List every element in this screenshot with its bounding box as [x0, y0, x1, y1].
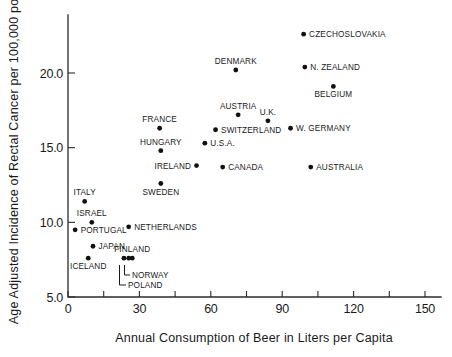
- marker-italy: [82, 199, 87, 204]
- x-axis-ticks: [68, 291, 425, 297]
- data-point-iceland: ICELAND: [70, 256, 107, 271]
- label-norway: NORWAY: [132, 271, 169, 280]
- label-u-k: U.K.: [260, 108, 277, 117]
- data-point-poland: [122, 256, 127, 261]
- data-point-finland: FINLAND: [114, 245, 150, 260]
- label-italy: ITALY: [74, 188, 97, 197]
- data-point-france: FRANCE: [142, 115, 177, 130]
- data-point-switzerland: SWITZERLAND: [213, 126, 281, 135]
- data-point-ireland: IRELAND: [154, 162, 198, 171]
- y-tick-label-20.0: 20.0: [40, 67, 63, 81]
- marker-canada: [220, 165, 225, 170]
- x-axis-tick-labels: 0306090120150: [65, 302, 436, 316]
- data-point-w-germany: W. GERMANY: [288, 124, 351, 133]
- data-point-australia: AUSTRALIA: [308, 163, 363, 172]
- marker-austria: [236, 112, 241, 117]
- data-point-israel: ISRAEL: [77, 209, 107, 224]
- data-point-netherlands: NETHERLANDS: [126, 223, 197, 232]
- marker-sweden: [158, 181, 163, 186]
- plot-area: 0306090120150 5.010.015.020.0 CZECHOSLOV…: [0, 0, 452, 357]
- marker-poland: [122, 256, 127, 261]
- data-points: CZECHOSLOVAKIADENMARKN. ZEALANDBELGIUMAU…: [70, 30, 386, 290]
- label-poland: POLAND: [128, 281, 163, 290]
- label-france: FRANCE: [142, 115, 177, 124]
- data-point-italy: ITALY: [74, 188, 97, 203]
- data-point-czechoslovakia: CZECHOSLOVAKIA: [301, 30, 386, 39]
- x-tick-label-120: 120: [344, 302, 364, 316]
- marker-switzerland: [213, 127, 218, 132]
- marker-hungary: [158, 148, 163, 153]
- marker-u-k: [266, 118, 271, 123]
- label-w-germany: W. GERMANY: [296, 124, 351, 133]
- label-israel: ISRAEL: [77, 209, 107, 218]
- marker-netherlands: [126, 224, 131, 229]
- marker-n-zealand: [302, 65, 307, 70]
- data-point-u-k: U.K.: [260, 108, 277, 123]
- label-canada: CANADA: [228, 163, 263, 172]
- marker-portugal: [73, 227, 78, 232]
- label-finland: FINLAND: [114, 245, 150, 254]
- label-denmark: DENMARK: [215, 57, 257, 66]
- marker-w-germany: [288, 126, 293, 131]
- x-tick-label-150: 150: [415, 302, 435, 316]
- scatter-chart: 0306090120150 5.010.015.020.0 CZECHOSLOV…: [0, 0, 452, 357]
- data-point-n-zealand: N. ZEALAND: [302, 63, 360, 72]
- label-sweden: SWEDEN: [142, 188, 179, 197]
- x-tick-label-30: 30: [133, 302, 147, 316]
- data-point-hungary: HUNGARY: [140, 138, 182, 153]
- x-tick-label-90: 90: [276, 302, 290, 316]
- data-point-denmark: DENMARK: [215, 57, 257, 72]
- label-iceland: ICELAND: [70, 262, 107, 271]
- x-tick-label-60: 60: [204, 302, 218, 316]
- marker-czechoslovakia: [301, 32, 306, 37]
- marker-australia: [308, 165, 313, 170]
- data-point-u-s-a: U.S.A.: [202, 139, 234, 148]
- marker-u-s-a: [202, 141, 207, 146]
- data-point-austria: AUSTRIA: [220, 102, 257, 117]
- label-n-zealand: N. ZEALAND: [310, 63, 360, 72]
- label-switzerland: SWITZERLAND: [221, 126, 281, 135]
- label-austria: AUSTRIA: [220, 102, 257, 111]
- marker-ireland: [194, 163, 199, 168]
- label-u-s-a: U.S.A.: [210, 139, 235, 148]
- label-portugal: PORTUGAL: [81, 226, 127, 235]
- data-point-belgium: BELGIUM: [314, 84, 352, 99]
- label-netherlands: NETHERLANDS: [134, 223, 197, 232]
- label-hungary: HUNGARY: [140, 138, 182, 147]
- data-point-sweden: SWEDEN: [142, 181, 179, 196]
- marker-israel: [89, 220, 94, 225]
- y-axis-title: Age Adjusted Incidence of Rectal Cancer …: [7, 0, 21, 324]
- label-belgium: BELGIUM: [314, 90, 352, 99]
- marker-iceland: [86, 256, 91, 261]
- marker-finland: [130, 256, 135, 261]
- x-axis-title: Annual Consumption of Beer in Liters per…: [115, 331, 393, 345]
- marker-japan: [91, 244, 96, 249]
- data-point-portugal: PORTUGAL: [73, 226, 127, 235]
- marker-france: [157, 126, 162, 131]
- y-tick-label-15.0: 15.0: [40, 141, 63, 155]
- label-australia: AUSTRALIA: [316, 163, 363, 172]
- y-tick-label-10.0: 10.0: [40, 216, 63, 230]
- label-czechoslovakia: CZECHOSLOVAKIA: [309, 30, 386, 39]
- data-point-canada: CANADA: [220, 163, 263, 172]
- marker-denmark: [233, 68, 238, 73]
- marker-belgium: [331, 84, 336, 89]
- label-ireland: IRELAND: [154, 162, 191, 171]
- norway-leader-line: [125, 265, 131, 275]
- x-tick-label-0: 0: [65, 302, 72, 316]
- y-tick-label-5.0: 5.0: [47, 291, 64, 305]
- y-axis-tick-labels: 5.010.015.020.0: [40, 67, 63, 305]
